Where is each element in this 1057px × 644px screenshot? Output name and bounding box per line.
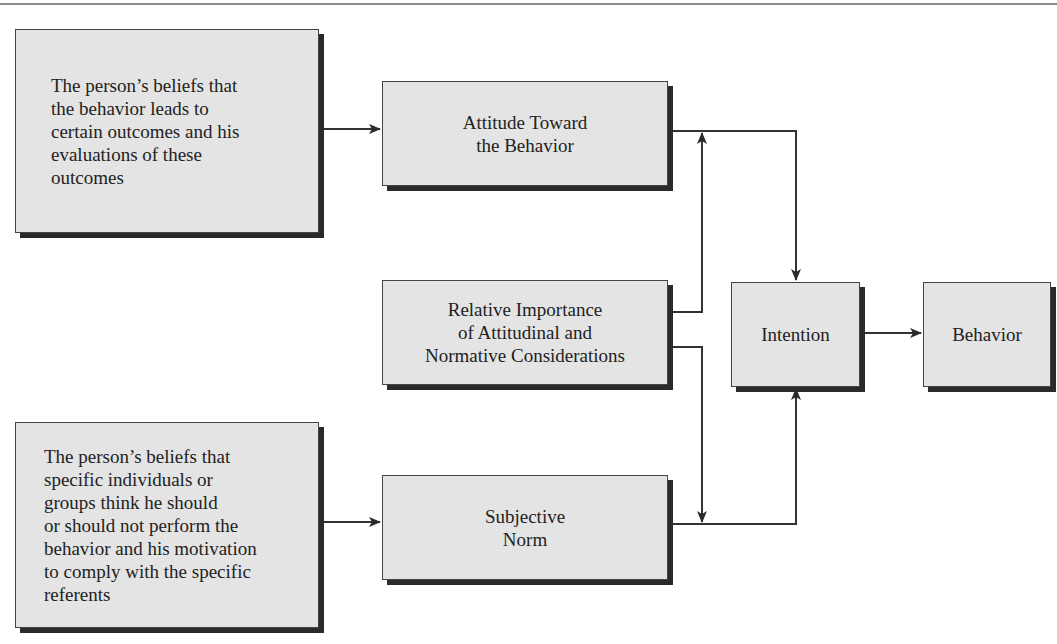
node-subjective-norm: Subjective Norm: [382, 475, 668, 580]
node-behavior-label: Behavior: [952, 323, 1022, 346]
arrow-attitude-to-intention: [672, 131, 796, 280]
node-subjective-norm-label: Subjective Norm: [485, 505, 565, 551]
arrow-relative-to-norm-link: [672, 347, 702, 522]
node-intention: Intention: [731, 282, 860, 387]
node-normative-beliefs: The person’s beliefs that specific indiv…: [15, 422, 319, 628]
node-relative-importance-label: Relative Importance of Attitudinal and N…: [425, 298, 625, 367]
node-attitude: Attitude Toward the Behavior: [382, 81, 668, 186]
node-behavior: Behavior: [923, 282, 1051, 387]
arrow-norm-to-intention: [672, 389, 796, 524]
node-normative-beliefs-label: The person’s beliefs that specific indiv…: [44, 445, 257, 606]
node-relative-importance: Relative Importance of Attitudinal and N…: [382, 280, 668, 385]
arrow-relative-to-attitude-link: [672, 133, 702, 312]
node-attitude-label: Attitude Toward the Behavior: [463, 111, 587, 157]
node-intention-label: Intention: [761, 323, 830, 346]
node-outcome-beliefs-label: The person’s beliefs that the behavior l…: [51, 74, 239, 189]
node-outcome-beliefs: The person’s beliefs that the behavior l…: [15, 29, 319, 233]
